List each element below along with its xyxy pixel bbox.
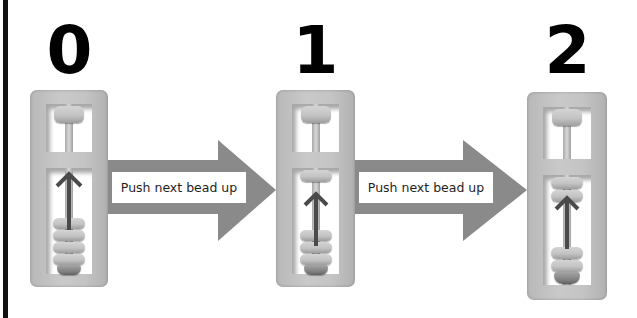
abacus-frame-step-1 (276, 90, 355, 287)
step-digit-1: 1 (275, 18, 355, 84)
rod-base (304, 265, 328, 275)
earth-bead-3 (53, 242, 85, 253)
arrow-label-2: Push next bead up (359, 172, 493, 203)
earth-bead-raised-1 (300, 170, 332, 182)
earth-bead-4 (300, 254, 332, 265)
up-arrow-icon (53, 170, 85, 232)
arrow-label-1: Push next bead up (112, 172, 246, 203)
heaven-bead (301, 106, 331, 123)
upper-window (292, 104, 339, 152)
step-digit-2: 2 (527, 18, 607, 84)
abacus-frame-step-2 (527, 92, 607, 300)
left-border-bar (3, 0, 8, 318)
up-arrow-icon (551, 193, 583, 251)
upper-window (543, 107, 591, 159)
heaven-bead (552, 109, 582, 126)
earth-bead-4 (53, 254, 85, 265)
rod-base (57, 265, 81, 275)
earth-bead-4 (551, 260, 583, 272)
earth-bead-raised-1 (551, 177, 583, 189)
heaven-bead (54, 106, 84, 123)
up-arrow-icon (300, 190, 332, 248)
upper-window (46, 104, 92, 152)
step-digit-0: 0 (29, 18, 109, 84)
abacus-frame-step-0 (30, 90, 108, 287)
rod-base (554, 272, 580, 284)
